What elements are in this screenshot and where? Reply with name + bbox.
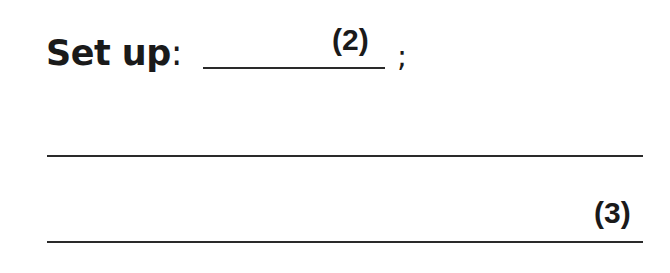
setup-colon: : [171,33,182,73]
marks-label-3: (3) [594,193,631,233]
setup-label-text: Set up [46,33,171,73]
setup-label: Set up: [46,28,182,78]
semicolon: ; [397,36,407,76]
setup-answer-blank[interactable] [203,67,385,69]
answer-line-1[interactable] [47,155,643,157]
marks-label-2: (2) [332,20,369,60]
answer-line-2[interactable] [47,241,643,243]
